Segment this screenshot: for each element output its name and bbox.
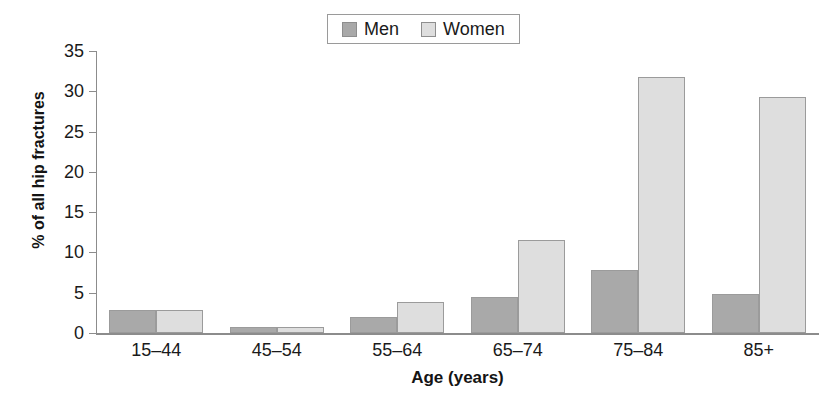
bar-men-65-74 xyxy=(471,297,518,333)
bar-men-85+ xyxy=(712,294,759,333)
y-axis-tick-label: 0 xyxy=(0,324,84,342)
y-axis-tick xyxy=(89,333,97,334)
legend-swatch-men xyxy=(342,22,357,37)
hip-fracture-bar-chart: Men Women % of all hip fractures 0510152… xyxy=(0,0,837,410)
y-axis-tick-label: 25 xyxy=(0,123,84,141)
x-axis-tick-label: 45–54 xyxy=(217,340,338,361)
plot-area xyxy=(96,51,819,333)
x-axis-tick-label: 15–44 xyxy=(96,340,217,361)
bar-women-15-44 xyxy=(156,310,203,333)
y-axis-tick-label: 30 xyxy=(0,82,84,100)
legend-label-women: Women xyxy=(443,20,505,38)
y-axis-tick-label: 20 xyxy=(0,163,84,181)
y-axis-tick-label: 15 xyxy=(0,203,84,221)
x-axis-tick-label: 65–74 xyxy=(458,340,579,361)
legend-entry-women: Women xyxy=(421,20,505,38)
legend-entry-men: Men xyxy=(342,20,399,38)
bar-women-55-64 xyxy=(397,302,444,333)
y-axis-tick-label: 35 xyxy=(0,42,84,60)
legend-label-men: Men xyxy=(364,20,399,38)
y-axis-tick-label: 5 xyxy=(0,284,84,302)
y-axis-tick-label: 10 xyxy=(0,243,84,261)
chart-legend: Men Women xyxy=(327,14,520,44)
bar-women-65-74 xyxy=(518,240,565,333)
x-axis-title: Age (years) xyxy=(96,368,819,388)
legend-swatch-women xyxy=(421,22,436,37)
bar-women-75-84 xyxy=(638,77,685,333)
bar-men-15-44 xyxy=(109,310,156,333)
bar-women-45-54 xyxy=(277,327,324,333)
bar-men-55-64 xyxy=(350,317,397,333)
x-axis-tick-label: 85+ xyxy=(699,340,820,361)
x-axis-line xyxy=(96,333,819,335)
bar-women-85+ xyxy=(759,97,806,333)
bar-men-75-84 xyxy=(591,270,638,333)
x-axis-tick-label: 55–64 xyxy=(337,340,458,361)
bar-men-45-54 xyxy=(230,327,277,333)
x-axis-tick-label: 75–84 xyxy=(578,340,699,361)
